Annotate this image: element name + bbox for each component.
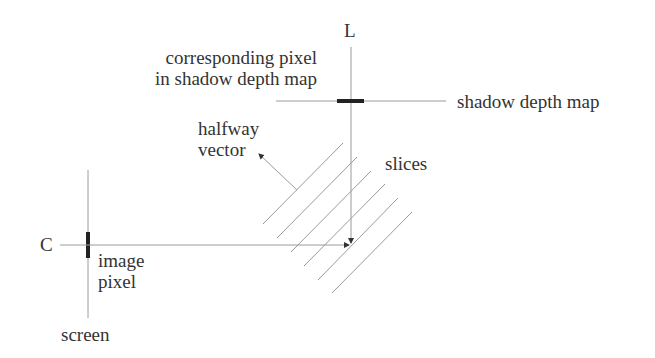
diagram-lines <box>0 0 655 358</box>
corresponding-pixel-label: corresponding pixel in shadow depth map <box>155 47 317 89</box>
light-label: L <box>344 20 356 41</box>
shadow-depth-map-label: shadow depth map <box>457 91 599 112</box>
corresponding-pixel-label-line2: in shadow depth map <box>155 68 317 89</box>
image-pixel-label: image pixel <box>98 250 144 292</box>
halfway-vector-arrow <box>259 154 297 190</box>
slice-line <box>304 184 385 266</box>
image-pixel-label-line2: pixel <box>98 271 144 292</box>
corresponding-pixel-label-line1: corresponding pixel <box>155 47 317 68</box>
camera-label: C <box>40 234 53 255</box>
halfway-label-line2: vector <box>198 139 259 160</box>
halfway-label-line1: halfway <box>198 118 259 139</box>
image-pixel-label-line1: image <box>98 250 144 271</box>
screen-label: screen <box>61 324 110 345</box>
halfway-vector-label: halfway vector <box>198 118 259 160</box>
diagram-canvas: L corresponding pixel in shadow depth ma… <box>0 0 655 358</box>
slices-label: slices <box>385 153 427 174</box>
